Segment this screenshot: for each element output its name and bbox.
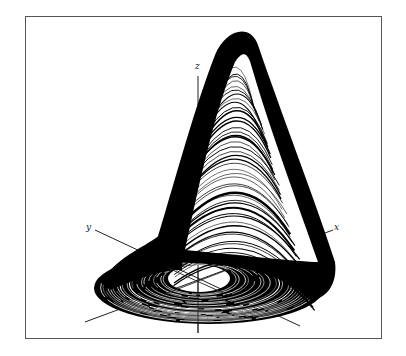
attractor-plot bbox=[0, 0, 406, 356]
x-axis-label: x bbox=[334, 223, 339, 232]
z-axis-label: z bbox=[195, 62, 200, 71]
y-axis-label: y bbox=[86, 223, 91, 232]
attractor-fold bbox=[100, 31, 335, 310]
